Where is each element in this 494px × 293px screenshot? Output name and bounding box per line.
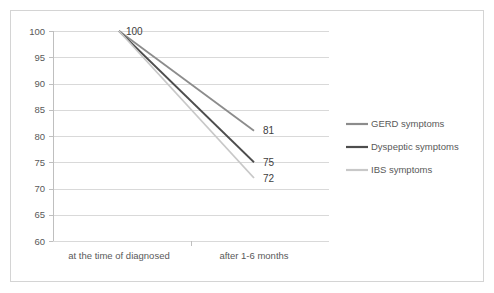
series-line-1 <box>119 31 254 162</box>
y-tick-label: 70 <box>34 183 45 194</box>
legend-label-2: IBS symptoms <box>371 164 432 175</box>
y-axis <box>49 31 54 242</box>
y-tick-label: 85 <box>34 104 45 115</box>
y-tick-label: 80 <box>34 131 45 142</box>
chart-frame: 6065707580859095100 817572100 at the tim… <box>10 10 484 282</box>
data-series <box>119 31 254 178</box>
gridlines <box>53 32 329 242</box>
category-label-0: at the time of diagnosed <box>68 250 169 261</box>
data-label-1: 75 <box>263 157 275 168</box>
y-tick-label: 60 <box>34 236 45 247</box>
y-tick-label: 95 <box>34 52 45 63</box>
line-chart: 6065707580859095100 817572100 at the tim… <box>11 11 485 283</box>
data-label-0: 81 <box>263 125 275 136</box>
chart-legend: GERD symptomsDyspeptic symptomsIBS sympt… <box>346 118 459 175</box>
category-labels: at the time of diagnosedafter 1-6 months <box>68 250 289 261</box>
y-tick-label: 65 <box>34 209 45 220</box>
data-label-2: 72 <box>263 173 275 184</box>
series-line-2 <box>119 31 254 178</box>
legend-label-0: GERD symptoms <box>371 118 445 129</box>
y-tick-label: 100 <box>29 26 45 37</box>
origin-data-label: 100 <box>126 26 143 37</box>
y-tick-label: 90 <box>34 78 45 89</box>
y-tick-labels: 6065707580859095100 <box>29 26 45 247</box>
series-line-0 <box>119 31 254 131</box>
legend-label-1: Dyspeptic symptoms <box>371 141 459 152</box>
y-tick-label: 75 <box>34 157 45 168</box>
category-label-1: after 1-6 months <box>219 250 288 261</box>
